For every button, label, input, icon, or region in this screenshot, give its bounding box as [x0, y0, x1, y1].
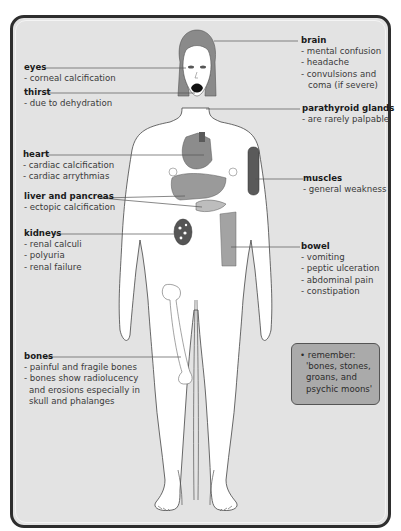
label-kidneys-item: - polyuria	[24, 250, 82, 261]
label-kidneys-item: - renal calculi	[24, 239, 82, 250]
label-eyes-item: - corneal calcification	[24, 73, 116, 84]
label-parathyroid-title: parathyroid glands	[302, 103, 394, 114]
remember-box: • remember: 'bones, stones, groans, and …	[291, 343, 380, 405]
label-bones: bones - painful and fragile bones - bone…	[24, 351, 140, 407]
label-kidneys-title: kidneys	[24, 228, 82, 239]
label-brain-item: coma (if severe)	[301, 80, 381, 91]
remember-line: psychic moons'	[300, 384, 373, 395]
label-liver-pancreas: liver and pancreas - ectopic calcificati…	[24, 191, 115, 213]
label-brain: brain - mental confusion - headache - co…	[301, 35, 381, 91]
label-parathyroid: parathyroid glands - are rarely palpable	[302, 103, 394, 125]
remember-line: groans, and	[300, 372, 373, 383]
label-thirst-item: - due to dehydration	[24, 98, 112, 109]
label-bowel-item: - constipation	[301, 286, 379, 297]
label-brain-item: - mental confusion	[301, 46, 381, 57]
label-heart: heart - cardiac calcification - cardiac …	[23, 149, 114, 183]
label-heart-item: - cardiac calcification	[23, 160, 114, 171]
right-eye	[200, 66, 206, 69]
heart-organ	[182, 133, 212, 169]
label-parathyroid-item: - are rarely palpable	[302, 114, 394, 125]
muscle-organ	[248, 147, 259, 195]
label-brain-item: - headache	[301, 57, 381, 68]
label-liver-title: liver and pancreas	[24, 191, 115, 202]
label-kidneys: kidneys - renal calculi - polyuria - ren…	[24, 228, 82, 273]
label-heart-title: heart	[23, 149, 114, 160]
label-muscles-item: - general weakness	[303, 184, 386, 195]
label-bones-item: - painful and fragile bones	[24, 362, 140, 373]
label-bones-title: bones	[24, 351, 140, 362]
remember-line: 'bones, stones,	[300, 361, 373, 372]
label-heart-item: - cardiac arrythmias	[23, 171, 114, 182]
label-bowel-item: - vomiting	[301, 252, 379, 263]
bowel-organ	[220, 212, 236, 266]
label-bowel-item: - peptic ulceration	[301, 263, 379, 274]
label-kidneys-item: - renal failure	[24, 262, 82, 273]
label-liver-item: - ectopic calcification	[24, 202, 115, 213]
head	[178, 30, 216, 96]
label-bowel-item: - abdominal pain	[301, 275, 379, 286]
label-muscles: muscles - general weakness	[303, 173, 386, 195]
left-eye	[188, 66, 194, 69]
label-eyes: eyes - corneal calcification	[24, 62, 116, 84]
remember-line: • remember:	[300, 350, 373, 361]
kidney-organ	[174, 219, 192, 245]
label-brain-title: brain	[301, 35, 381, 46]
aorta	[199, 132, 205, 142]
label-thirst-title: thirst	[24, 87, 112, 98]
label-bowel: bowel - vomiting - peptic ulceration - a…	[301, 241, 379, 297]
label-brain-item: - convulsions and	[301, 69, 381, 80]
label-bones-item: and erosions especially in	[24, 385, 140, 396]
label-bones-item: - bones show radiolucency	[24, 373, 140, 384]
label-bowel-title: bowel	[301, 241, 379, 252]
label-muscles-title: muscles	[303, 173, 386, 184]
label-bones-item: skull and phalanges	[24, 396, 140, 407]
label-eyes-title: eyes	[24, 62, 116, 73]
label-thirst: thirst - due to dehydration	[24, 87, 112, 109]
